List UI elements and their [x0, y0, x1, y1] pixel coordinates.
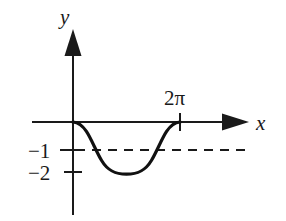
x-axis-arrowhead-icon — [222, 114, 249, 131]
cosine-dip-curve — [73, 122, 180, 174]
x-axis-label: x — [255, 111, 266, 135]
x-tick-label-2pi: 2π — [164, 86, 186, 110]
y-axis-label: y — [58, 5, 70, 29]
y-tick-label-minus1: −1 — [28, 139, 50, 163]
y-axis-arrowhead-icon — [65, 29, 82, 56]
y-tick-label-minus2: −2 — [28, 161, 50, 185]
graph-figure: y x 2π −1 −2 — [0, 0, 286, 221]
